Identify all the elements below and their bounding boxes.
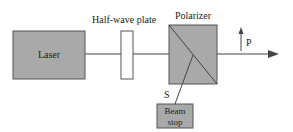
beam-stop-label-2: stop — [167, 117, 183, 127]
p-arrowhead-icon — [239, 27, 244, 34]
p-label: P — [246, 37, 252, 48]
laser-box: Laser — [13, 31, 85, 79]
beam-arrowhead-icon — [268, 50, 279, 58]
polarizer: Polarizer — [169, 10, 217, 84]
s-label: S — [164, 89, 170, 100]
beam-stop: Beam stop — [157, 104, 193, 128]
laser-label: Laser — [38, 49, 61, 60]
half-wave-plate-label: Half-wave plate — [92, 14, 157, 25]
beam-stop-label-1: Beam — [165, 106, 186, 116]
polarizer-label: Polarizer — [175, 10, 212, 21]
half-wave-plate: Half-wave plate — [92, 14, 157, 79]
